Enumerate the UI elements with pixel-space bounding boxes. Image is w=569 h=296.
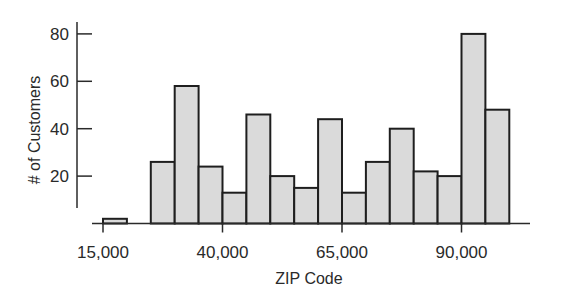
histogram-bar	[342, 193, 366, 224]
histogram-bar	[294, 188, 318, 224]
histogram-bar	[366, 162, 390, 224]
y-tick-label: 20	[50, 167, 69, 186]
histogram-bar	[151, 162, 175, 224]
x-tick-label: 15,000	[77, 243, 129, 262]
x-tick-label: 65,000	[316, 243, 368, 262]
histogram-bar	[318, 119, 342, 223]
y-axis: 20406080	[50, 22, 92, 208]
histogram-chart: 20406080 15,00040,00065,00090,000 ZIP Co…	[0, 0, 569, 296]
histogram-bar	[485, 110, 509, 224]
histogram-bar	[414, 171, 438, 223]
histogram-bar	[246, 115, 270, 224]
histogram-bar	[270, 176, 294, 223]
histogram-bar	[199, 167, 223, 224]
x-axis: 15,00040,00065,00090,000	[77, 224, 530, 263]
histogram-bars	[103, 34, 509, 224]
x-tick-label: 90,000	[436, 243, 488, 262]
histogram-bar	[462, 34, 486, 224]
y-tick-label: 80	[50, 25, 69, 44]
x-axis-title: ZIP Code	[275, 270, 342, 287]
histogram-bar	[390, 129, 414, 224]
y-tick-label: 60	[50, 72, 69, 91]
histogram-bar	[223, 193, 247, 224]
y-axis-title: # of Customers	[26, 76, 43, 184]
x-tick-label: 40,000	[197, 243, 249, 262]
histogram-bar	[175, 86, 199, 224]
y-tick-label: 40	[50, 120, 69, 139]
histogram-bar	[438, 176, 462, 223]
